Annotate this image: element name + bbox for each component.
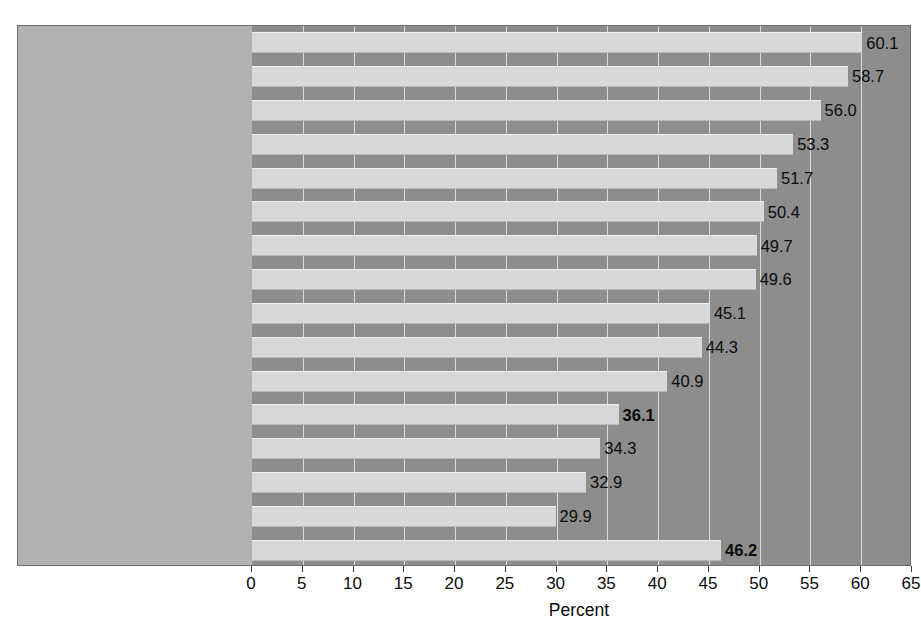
x-tick-label: 65 xyxy=(902,575,921,592)
x-axis-title-label: Percent xyxy=(549,602,609,620)
bar xyxy=(252,303,710,324)
bar xyxy=(252,540,721,561)
x-tick xyxy=(606,566,607,572)
x-tick xyxy=(556,566,557,572)
x-tick-label: 15 xyxy=(394,575,413,592)
x-tick xyxy=(505,566,506,572)
x-tick-label: 60 xyxy=(851,575,870,592)
bar xyxy=(252,269,756,290)
bar xyxy=(252,472,586,493)
x-tick xyxy=(251,566,252,572)
x-tick-label: 30 xyxy=(546,575,565,592)
x-tick xyxy=(353,566,354,572)
bar-value-label: 53.3 xyxy=(797,136,829,153)
bar-value-label: 51.7 xyxy=(781,170,813,187)
x-tick-label: 25 xyxy=(495,575,514,592)
x-tick xyxy=(860,566,861,572)
x-tick-label: 55 xyxy=(800,575,819,592)
bar xyxy=(252,134,793,155)
x-tick-label: 10 xyxy=(343,575,362,592)
bar-value-label: 49.6 xyxy=(760,271,792,288)
bar-value-label: 58.7 xyxy=(852,68,884,85)
x-tick-label: 35 xyxy=(597,575,616,592)
bar xyxy=(252,32,862,53)
bar-value-label: 34.3 xyxy=(604,440,636,457)
x-tick-label: 40 xyxy=(648,575,667,592)
bar-value-label: 44.3 xyxy=(706,339,738,356)
bar-value-label: 56.0 xyxy=(825,102,857,119)
bar xyxy=(252,100,821,121)
x-tick xyxy=(302,566,303,572)
x-tick xyxy=(809,566,810,572)
bar xyxy=(252,168,777,189)
x-tick xyxy=(403,566,404,572)
bar-value-label: 46.2 xyxy=(725,542,757,559)
x-tick xyxy=(657,566,658,572)
x-tick xyxy=(708,566,709,572)
x-axis-title: Percent xyxy=(17,602,911,620)
bar xyxy=(252,371,667,392)
chart-figure: Sweden60.1Denmark58.7Netherlands56.0Norw… xyxy=(0,0,921,635)
x-tick-label: 50 xyxy=(749,575,768,592)
bar xyxy=(252,337,702,358)
bar-value-label: 32.9 xyxy=(590,474,622,491)
category-label-panel xyxy=(18,26,252,565)
bar-value-label: 50.4 xyxy=(768,204,800,221)
plot-frame: Sweden60.1Denmark58.7Netherlands56.0Norw… xyxy=(17,25,911,566)
bar-value-label: 49.7 xyxy=(761,238,793,255)
bar xyxy=(252,66,848,87)
bar-value-label: 36.1 xyxy=(623,407,655,424)
bar-value-label: 29.9 xyxy=(560,508,592,525)
bar xyxy=(252,201,764,222)
bar-value-label: 45.1 xyxy=(714,305,746,322)
x-tick-label: 20 xyxy=(445,575,464,592)
bar xyxy=(252,404,619,425)
bar xyxy=(252,438,600,459)
x-axis: Percent 05101520253035404550556065 xyxy=(17,566,911,635)
x-tick-label: 0 xyxy=(246,575,255,592)
bar xyxy=(252,506,556,527)
x-tick-label: 45 xyxy=(698,575,717,592)
bar xyxy=(252,235,757,256)
bar-value-label: 60.1 xyxy=(866,35,898,52)
bar-value-label: 40.9 xyxy=(671,373,703,390)
x-tick xyxy=(911,566,912,572)
x-tick xyxy=(454,566,455,572)
x-tick xyxy=(759,566,760,572)
x-tick-label: 5 xyxy=(297,575,306,592)
